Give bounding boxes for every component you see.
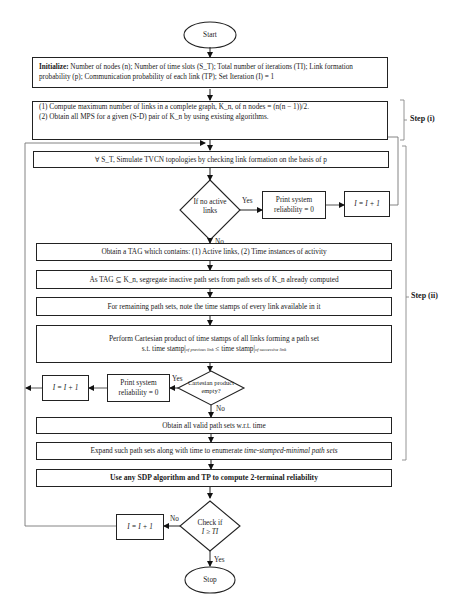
decision1-yes: Yes	[242, 197, 252, 205]
step1-line2: (2) Obtain all MPS for a given (S-D) pai…	[39, 112, 269, 122]
increment-text-1: I = I + 1	[354, 199, 380, 209]
sdp-box: Use any SDP algorithm and TP to compute …	[36, 469, 392, 487]
simulate-box: ∀ S_T, Simulate TVCN topologies by check…	[33, 151, 389, 168]
segregate-box: As TAG ⊆ K_n, segregate inactive path se…	[36, 270, 392, 289]
print-reliability-box-2: Print system reliability = 0	[107, 374, 170, 402]
initialize-label: Initialize:	[39, 63, 69, 71]
step1-label: Step (i)	[410, 114, 435, 123]
decision2-no: No	[216, 405, 225, 413]
remaining-box: For remaining path sets, note the time s…	[36, 297, 392, 316]
expand-italic: time-stamped-minimal path sets	[244, 446, 337, 456]
increment-box-3: I = I + 1	[116, 514, 164, 540]
step2-label: Step (ii)	[411, 291, 438, 300]
initialize-text: Initialize: Number of nodes (n); Number …	[39, 63, 383, 82]
increment-box-2: I = I + 1	[42, 375, 89, 401]
cartesian-line2: s.t. time stamp|of previous link ≤ time …	[142, 344, 286, 354]
decision3-no: No	[170, 515, 179, 523]
decision3-yes: Yes	[214, 556, 224, 564]
print-reliability-box-1: Print system reliability = 0	[262, 191, 326, 219]
cartesian-sub1: of previous link	[186, 347, 214, 352]
valid-paths-box: Obtain all valid path sets w.r.t. time	[36, 417, 392, 434]
start-label: Start	[184, 30, 236, 39]
step1-bracket	[400, 100, 404, 140]
stop-label: Stop	[185, 575, 235, 584]
decision2-label: Cartesian product empty?	[186, 379, 236, 396]
step1-box: (1) Compute maximum number of links in a…	[32, 101, 388, 140]
tag-box: Obtain a TAG which contains: (1) Active …	[36, 243, 392, 261]
initialize-content: Number of nodes (n); Number of time slot…	[39, 63, 353, 81]
expand-text: Expand such path sets along with time to…	[90, 446, 242, 456]
cartesian-sub2: of successive link	[255, 347, 286, 352]
decision2-yes: Yes	[172, 375, 182, 383]
expand-box: Expand such path sets along with time to…	[36, 442, 392, 460]
decision3-line2: I ≥ TI	[188, 527, 232, 536]
initialize-box: Initialize: Number of nodes (n); Number …	[32, 57, 388, 88]
decision1-label: If no active links	[189, 197, 231, 216]
increment-box-1: I = I + 1	[344, 191, 390, 217]
decision3-label: Check if I ≥ TI	[188, 518, 232, 537]
step1-line1: (1) Compute maximum number of links in a…	[39, 102, 309, 112]
step2-bracket	[402, 146, 406, 460]
cartesian-line1: Perform Cartesian product of time stamps…	[109, 334, 319, 344]
cartesian-prefix: s.t. time stamp|	[142, 344, 186, 353]
increment-text-2: I = I + 1	[53, 383, 79, 393]
decision3-line1: Check if	[188, 518, 232, 527]
increment-text-3: I = I + 1	[127, 522, 153, 532]
cartesian-mid: ≤ time stamp|	[214, 344, 255, 353]
cartesian-box: Perform Cartesian product of time stamps…	[36, 325, 392, 363]
